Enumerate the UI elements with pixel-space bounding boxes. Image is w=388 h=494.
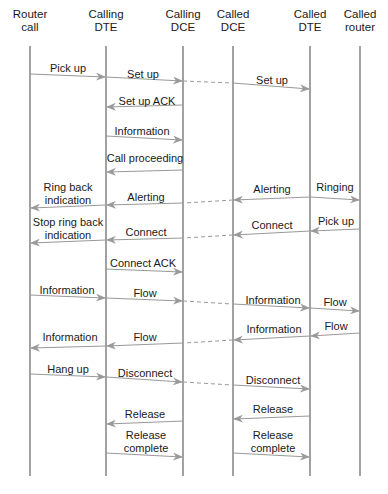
- dashed-connector: [183, 382, 232, 385]
- message-label-line: Information: [114, 125, 169, 138]
- header-line: Calling: [76, 8, 136, 21]
- header-line: router: [330, 21, 388, 34]
- header-line: DCE: [203, 21, 263, 34]
- message-label-line: Pick up: [50, 62, 86, 75]
- message-label-line: Information: [39, 284, 94, 297]
- header-line: DTE: [76, 21, 136, 34]
- message-label: Releasecomplete: [251, 429, 296, 454]
- message-label: Disconnect: [246, 374, 300, 387]
- message-label-line: Ringing: [316, 181, 353, 194]
- message-label: Flow: [133, 287, 156, 300]
- message-arrow: [31, 346, 106, 348]
- message-label-line: Disconnect: [118, 367, 172, 380]
- message-label: Set up: [127, 68, 159, 81]
- message-label-line: Flow: [133, 287, 156, 300]
- message-label: Pick up: [50, 62, 86, 75]
- header-line: Router: [0, 8, 60, 21]
- dashed-connector: [184, 235, 233, 238]
- message-label-line: Flow: [324, 320, 347, 333]
- message-label-line: indication: [33, 229, 103, 242]
- message-label-line: Stop ring back: [33, 216, 103, 229]
- message-label: Information: [42, 331, 97, 344]
- message-label-line: Release: [253, 403, 293, 416]
- message-label-line: Ring back: [44, 181, 93, 194]
- message-arrow: [107, 170, 183, 172]
- message-label-line: Release: [251, 429, 296, 442]
- message-label: Ring backindication: [44, 181, 93, 206]
- message-label: Information: [245, 294, 300, 307]
- message-label-line: Connect: [252, 219, 293, 232]
- message-label-line: Release: [124, 429, 169, 442]
- message-label-line: complete: [124, 442, 169, 455]
- dashed-connector: [183, 81, 232, 83]
- message-label: Alerting: [127, 191, 164, 204]
- message-label-line: Set up: [127, 68, 159, 81]
- message-label: Hang up: [47, 363, 89, 376]
- message-label-line: Release: [125, 408, 165, 421]
- message-label-line: complete: [251, 442, 296, 455]
- message-label-line: Flow: [323, 296, 346, 309]
- dashed-connector: [184, 200, 233, 203]
- message-arrow: [311, 333, 360, 336]
- message-label-line: Set up: [256, 74, 288, 87]
- message-label: Information: [39, 284, 94, 297]
- message-label: Pick up: [318, 215, 354, 228]
- message-label: Alerting: [253, 183, 290, 196]
- message-label: Disconnect: [118, 367, 172, 380]
- message-label: Ringing: [316, 181, 353, 194]
- dashed-connector: [183, 301, 232, 304]
- message-label-line: Set up ACK: [119, 95, 176, 108]
- message-arrow: [107, 421, 183, 424]
- message-label: Set up ACK: [119, 95, 176, 108]
- lifeline-header-calling-dte: Calling DTE: [76, 8, 136, 34]
- message-label-line: Pick up: [318, 215, 354, 228]
- message-label: Stop ring backindication: [33, 216, 103, 241]
- message-label-line: indication: [44, 194, 93, 207]
- lifeline-header-called-dce: Called DCE: [203, 8, 263, 34]
- message-label-line: Disconnect: [246, 374, 300, 387]
- header-line: Called: [330, 8, 388, 21]
- message-arrow: [234, 231, 310, 235]
- message-label: Releasecomplete: [124, 429, 169, 454]
- message-label: Information: [246, 323, 301, 336]
- message-label: Connect: [252, 219, 293, 232]
- message-label-line: Information: [246, 323, 301, 336]
- message-label-line: Connect ACK: [110, 257, 176, 270]
- message-arrow: [310, 197, 359, 200]
- message-arrow: [234, 197, 310, 200]
- lifeline-header-called-router: Called router: [330, 8, 388, 34]
- message-label: Flow: [324, 320, 347, 333]
- message-label: Flow: [133, 331, 156, 344]
- message-label-line: Alerting: [127, 191, 164, 204]
- message-label-line: Information: [42, 331, 97, 344]
- dashed-connector: [184, 340, 233, 343]
- message-label: Connect ACK: [110, 257, 176, 270]
- message-arrow: [311, 229, 360, 231]
- header-line: Called: [203, 8, 263, 21]
- message-arrow: [234, 336, 310, 340]
- message-label-line: Connect: [126, 226, 167, 239]
- message-label: Flow: [323, 296, 346, 309]
- message-arrow: [234, 416, 310, 419]
- message-label-line: Call proceeding: [107, 152, 183, 165]
- message-label: Set up: [256, 74, 288, 87]
- message-label-line: Information: [245, 294, 300, 307]
- message-label: Release: [253, 403, 293, 416]
- message-label-line: Flow: [133, 331, 156, 344]
- message-label: Information: [114, 125, 169, 138]
- header-line: call: [0, 21, 60, 34]
- message-label: Call proceeding: [107, 152, 183, 165]
- message-label: Release: [125, 408, 165, 421]
- message-label: Connect: [126, 226, 167, 239]
- lifeline-header-router-call: Router call: [0, 8, 60, 34]
- message-label-line: Alerting: [253, 183, 290, 196]
- message-label-line: Hang up: [47, 363, 89, 376]
